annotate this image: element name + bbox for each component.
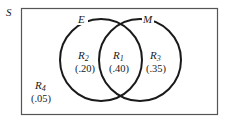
svg-text:R4: R4 bbox=[34, 79, 46, 93]
set-e-circle bbox=[60, 19, 142, 101]
set-e-label: E bbox=[77, 13, 85, 25]
svg-text:R3: R3 bbox=[149, 49, 161, 63]
svg-text:R1: R1 bbox=[112, 49, 124, 63]
region-r1: R1 (.40) bbox=[109, 49, 130, 75]
region-r2: R2 (.20) bbox=[75, 49, 96, 75]
svg-text:(.35): (.35) bbox=[146, 63, 167, 75]
svg-text:(.05): (.05) bbox=[31, 93, 52, 105]
svg-text:R2: R2 bbox=[77, 49, 89, 63]
region-r4: R4 (.05) bbox=[31, 79, 52, 105]
universe-label: S bbox=[6, 6, 12, 18]
svg-text:(.40): (.40) bbox=[109, 63, 130, 75]
set-m-circle bbox=[99, 19, 181, 101]
region-r3: R3 (.35) bbox=[146, 49, 167, 75]
venn-diagram: S E M R2 (.20) R1 (.40) R3 (.35) R4 (.05… bbox=[0, 0, 230, 123]
set-m-label: M bbox=[142, 13, 153, 25]
svg-text:(.20): (.20) bbox=[75, 63, 96, 75]
